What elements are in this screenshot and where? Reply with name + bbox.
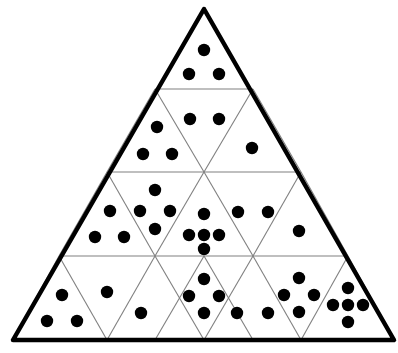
dot-r1-c1-2 — [183, 68, 195, 80]
dot-r4-c5-2 — [278, 289, 290, 301]
dot-r4-c4-1 — [231, 307, 243, 319]
dot-r3-c5-1 — [293, 225, 305, 237]
dot-r3-c2-2 — [134, 205, 146, 217]
dot-r4-c3-3 — [213, 290, 225, 302]
dot-r3-c3-2 — [183, 229, 195, 241]
dot-r4-c3-1 — [198, 273, 210, 285]
dot-r3-c1-2 — [89, 231, 101, 243]
dot-r4-c3-2 — [183, 290, 195, 302]
dot-r1-c1-1 — [198, 44, 210, 56]
dot-r2-c2-1 — [184, 113, 196, 125]
dot-r4-c5-3 — [308, 289, 320, 301]
triangle-dot-figure — [0, 0, 398, 353]
dot-r4-c4-2 — [262, 307, 274, 319]
dot-r3-c2-4 — [149, 223, 161, 235]
dot-r4-c6-1 — [342, 282, 354, 294]
dot-r3-c2-1 — [149, 184, 161, 196]
dot-r3-c3-5 — [198, 243, 210, 255]
dot-r4-c1-1 — [56, 289, 68, 301]
dot-r4-c3-4 — [198, 307, 210, 319]
dot-r4-c1-2 — [41, 315, 53, 327]
dot-r4-c2-1 — [101, 286, 113, 298]
triangle-cell-r3-c5 — [293, 225, 305, 237]
dot-r4-c2-2 — [135, 307, 147, 319]
triangle-diagram-svg — [0, 0, 398, 353]
dot-r3-c2-3 — [164, 205, 176, 217]
dot-r3-c1-1 — [104, 205, 116, 217]
dot-r4-c6-3 — [342, 299, 354, 311]
dot-r2-c3-1 — [246, 142, 258, 154]
dot-r4-c1-3 — [71, 315, 83, 327]
dot-r2-c1-2 — [137, 148, 149, 160]
dot-r2-c1-1 — [151, 121, 163, 133]
dot-r4-c5-1 — [293, 272, 305, 284]
dot-r3-c3-4 — [213, 229, 225, 241]
dot-r4-c6-2 — [327, 299, 339, 311]
dot-r3-c3-1 — [198, 208, 210, 220]
dot-r2-c1-3 — [166, 148, 178, 160]
dot-r3-c4-1 — [232, 206, 244, 218]
dot-r4-c6-5 — [342, 316, 354, 328]
dot-r1-c1-3 — [213, 68, 225, 80]
dot-r3-c1-3 — [118, 231, 130, 243]
dot-r3-c3-3 — [198, 229, 210, 241]
triangle-cell-r2-c3 — [246, 142, 258, 154]
dot-r4-c5-4 — [293, 306, 305, 318]
dot-r2-c2-2 — [213, 113, 225, 125]
dot-r4-c6-4 — [357, 299, 369, 311]
dot-r3-c4-2 — [262, 206, 274, 218]
